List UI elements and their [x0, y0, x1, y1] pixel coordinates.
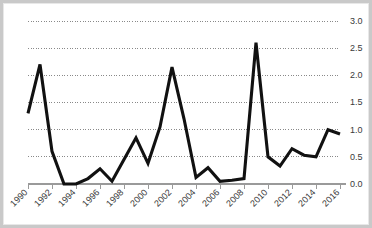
data-series-group [28, 43, 340, 184]
x-tick-label-1992: 1992 [32, 187, 53, 208]
y-tick-label-0.0: 0.0 [350, 179, 363, 189]
x-tick-label-1996: 1996 [80, 187, 101, 208]
line-chart: 0.00.51.01.52.02.53.0 199019921994199619… [3, 3, 372, 228]
x-tick-label-2008: 2008 [224, 187, 245, 208]
x-tick-label-2004: 2004 [176, 187, 197, 208]
y-tick-label-2.5: 2.5 [350, 43, 363, 53]
y-tick-label-3.0: 3.0 [350, 16, 363, 26]
x-tick-label-2012: 2012 [272, 187, 293, 208]
x-tick-labels: 1990199219941996199820002002200420062008… [8, 187, 341, 208]
x-tick-label-1990: 1990 [8, 187, 29, 208]
x-tick-label-2014: 2014 [296, 187, 317, 208]
x-tick-label-1998: 1998 [104, 187, 125, 208]
x-tick-label-2002: 2002 [152, 187, 173, 208]
x-tick-label-2000: 2000 [128, 187, 149, 208]
x-tick-label-1994: 1994 [56, 187, 77, 208]
chart-frame: 0.00.51.01.52.02.53.0 199019921994199619… [0, 0, 372, 228]
y-tick-label-1.0: 1.0 [350, 125, 363, 135]
data-line-value [28, 43, 340, 184]
x-tick-label-2006: 2006 [200, 187, 221, 208]
y-tick-label-2.0: 2.0 [350, 70, 363, 80]
x-tick-label-2010: 2010 [248, 187, 269, 208]
gridlines [28, 21, 340, 157]
y-tick-label-1.5: 1.5 [350, 97, 363, 107]
y-tick-labels: 0.00.51.01.52.02.53.0 [350, 16, 363, 189]
x-tick-label-2016: 2016 [320, 187, 341, 208]
y-tick-label-0.5: 0.5 [350, 152, 363, 162]
